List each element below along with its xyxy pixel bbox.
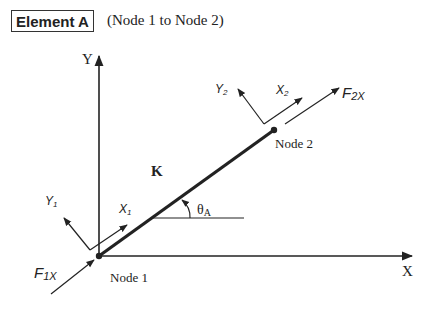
node-1-label: Node 1 <box>110 270 148 285</box>
force-f2x: F2X <box>285 84 365 124</box>
local-y2-label: Y2 <box>215 82 228 97</box>
force-f1x-label: F1X <box>34 264 57 282</box>
angle-label: θA <box>197 202 212 218</box>
local-axes-node-2: Y2 X2 <box>215 82 302 124</box>
node-1-point <box>96 253 102 259</box>
node-2-point <box>271 127 277 133</box>
element-bar: K <box>96 127 277 259</box>
local-x1-label: X1 <box>118 202 131 217</box>
force-f2x-label: F2X <box>342 84 365 102</box>
global-y-axis: Y <box>82 51 99 256</box>
global-x-label: X <box>402 263 413 279</box>
force-f1x: F1X <box>34 260 94 294</box>
local-x2-label: X2 <box>275 83 289 98</box>
node-2-label: Node 2 <box>275 136 313 151</box>
local-y1-label: Y1 <box>45 194 57 209</box>
truss-element-diagram: Y X K θA Node 1 Node 2 Y1 X1 Y2 X2 F1X <box>0 0 445 311</box>
global-y-label: Y <box>82 51 93 67</box>
stiffness-label: K <box>151 163 163 179</box>
